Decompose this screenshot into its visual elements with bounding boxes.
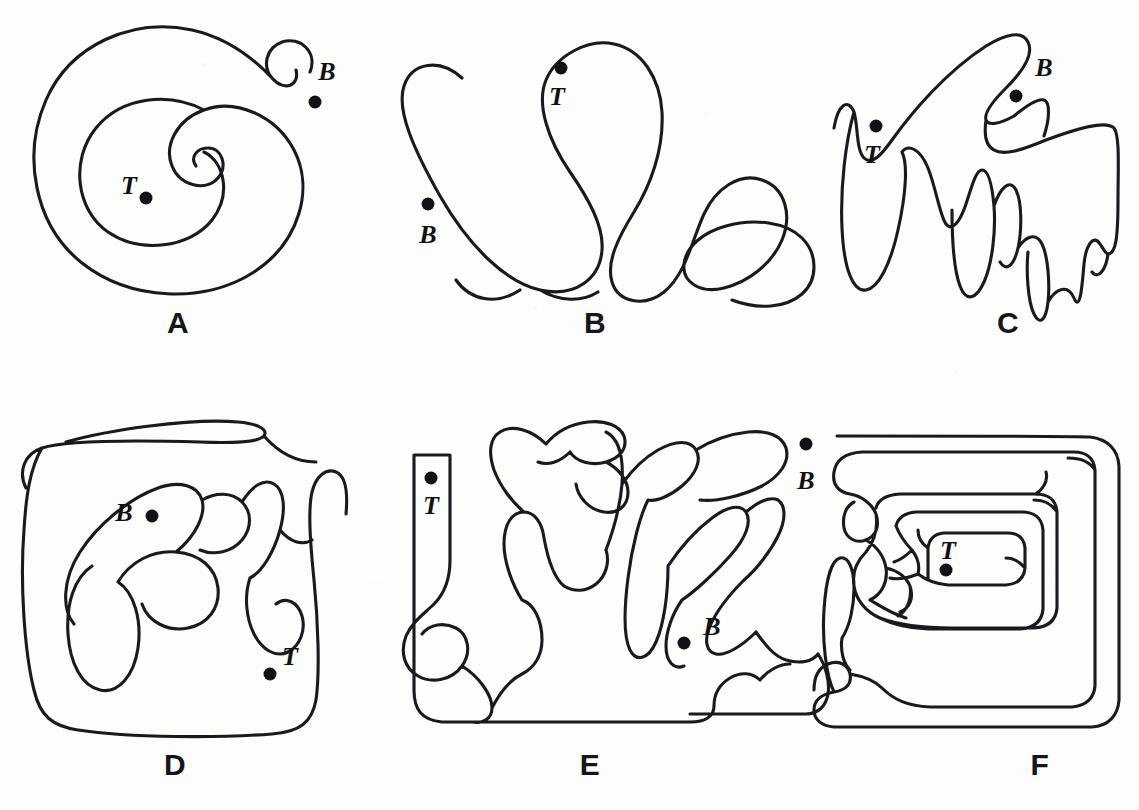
marker-dot-a-b (309, 96, 322, 109)
maze-figure: ABTBTBCBTDBTETBFBT (0, 0, 1139, 810)
marker-label-b-t: T (549, 82, 565, 112)
marker-label-c-b: B (1035, 53, 1052, 83)
panel-letter-b: B (584, 306, 606, 340)
marker-dot-e-t (425, 472, 438, 485)
marker-dot-c-t (870, 120, 883, 133)
marker-dot-c-b (1010, 90, 1023, 103)
panel-letter-d: D (164, 748, 186, 782)
marker-label-c-t: T (864, 140, 880, 170)
maze-outline-a (34, 27, 312, 294)
marker-dot-d-t (264, 668, 277, 681)
marker-dot-d-b (146, 510, 159, 523)
panel-letter-e: E (580, 748, 601, 782)
marker-label-f-t: T (940, 536, 956, 566)
marker-dot-b-t (555, 62, 568, 75)
maze-outline-e (403, 422, 828, 723)
marker-dot-e-b (678, 637, 691, 650)
panel-letter-a: A (167, 306, 189, 340)
maze-svg-canvas (0, 0, 1139, 810)
maze-outline-d (22, 421, 346, 736)
marker-label-a-b: B (318, 57, 335, 87)
marker-dot-a-t (140, 192, 153, 205)
maze-outline-c (834, 35, 1118, 320)
maze-outline-b (402, 43, 814, 306)
marker-dot-b-b (422, 198, 435, 211)
marker-dot-f-b (800, 438, 813, 451)
marker-label-e-b: B (703, 612, 720, 642)
marker-label-a-t: T (121, 171, 137, 201)
marker-label-d-b: B (115, 498, 132, 528)
maze-outline-f (814, 436, 1119, 727)
marker-label-b-b: B (419, 220, 436, 250)
marker-label-d-t: T (282, 642, 298, 672)
panel-letter-c: C (997, 306, 1019, 340)
panel-letter-f: F (1031, 748, 1050, 782)
marker-label-f-b: B (797, 466, 814, 496)
marker-label-e-t: T (423, 491, 439, 521)
